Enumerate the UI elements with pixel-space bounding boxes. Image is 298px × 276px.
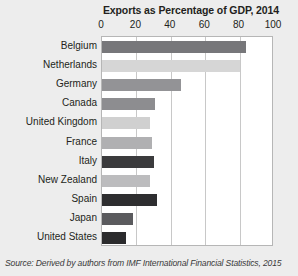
category-label-belgium: Belgium — [0, 40, 97, 52]
bar-canada — [102, 98, 155, 110]
bar-series — [102, 37, 272, 245]
bar-belgium — [102, 41, 246, 53]
category-label-canada: Canada — [0, 97, 97, 109]
x-axis-tick-labels: 020406080100 — [0, 19, 298, 33]
category-label-france: France — [0, 136, 97, 148]
bar-france — [102, 137, 152, 149]
chart-title: Exports as Percentage of GDP, 2014 — [96, 4, 286, 16]
bar-united-states — [102, 232, 126, 244]
x-tick-label-20: 20 — [130, 19, 141, 30]
x-tick-label-80: 80 — [233, 19, 244, 30]
x-tick-label-0: 0 — [98, 19, 104, 30]
bar-germany — [102, 79, 181, 91]
bar-new-zealand — [102, 175, 150, 187]
category-label-netherlands: Netherlands — [0, 59, 97, 71]
category-label-united-states: United States — [0, 231, 97, 243]
category-label-new-zealand: New Zealand — [0, 174, 97, 186]
y-axis-category-labels: BelgiumNetherlandsGermanyCanadaUnited Ki… — [0, 36, 97, 246]
x-tick-label-60: 60 — [199, 19, 210, 30]
plot-area — [101, 36, 273, 246]
source-note: Source: Derived by authors from IMF Inte… — [5, 258, 297, 268]
bar-spain — [102, 194, 157, 206]
source-emphasis: IMF International Financial Statistics — [126, 258, 258, 268]
bar-japan — [102, 213, 133, 225]
category-label-spain: Spain — [0, 193, 97, 205]
x-tick-label-40: 40 — [164, 19, 175, 30]
x-tick-label-100: 100 — [265, 19, 282, 30]
source-prefix: Source: Derived by authors from — [5, 258, 126, 268]
bar-united-kingdom — [102, 117, 150, 129]
category-label-united-kingdom: United Kingdom — [0, 116, 97, 128]
bar-italy — [102, 156, 154, 168]
category-label-germany: Germany — [0, 78, 97, 90]
category-label-japan: Japan — [0, 212, 97, 224]
bar-netherlands — [102, 60, 240, 72]
source-suffix: , 2015 — [258, 258, 281, 268]
chart-figure: Exports as Percentage of GDP, 2014 02040… — [0, 0, 298, 276]
category-label-italy: Italy — [0, 155, 97, 167]
